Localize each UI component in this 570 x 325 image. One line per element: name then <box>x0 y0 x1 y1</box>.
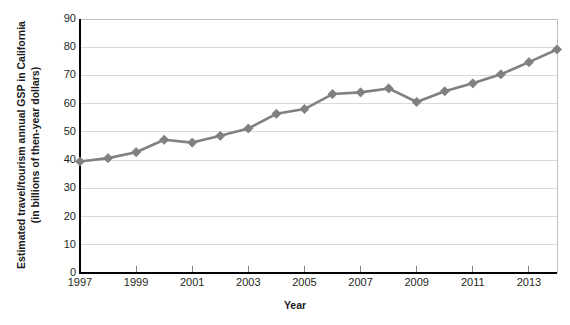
x-axis-tick-label: 2001 <box>172 276 212 289</box>
x-axis-tick-label: 2011 <box>453 276 493 289</box>
x-axis-title-text: Year <box>284 299 306 311</box>
x-axis-title: Year <box>0 299 570 311</box>
x-axis-tick-label: 2003 <box>228 276 268 289</box>
x-axis-tick-label: 2013 <box>509 276 549 289</box>
data-series-line <box>80 49 557 161</box>
x-axis-tick-label: 2009 <box>397 276 437 289</box>
x-axis-tick-label: 1997 <box>60 276 100 289</box>
x-axis-tick-label: 2007 <box>341 276 381 289</box>
line-chart-figure: Estimated travel/tourism annual GSP in C… <box>0 0 570 325</box>
gridlines <box>80 19 557 245</box>
x-axis-tick-labels: 199719992001200320052007200920112013 <box>0 276 570 296</box>
x-axis-tick-label: 1999 <box>116 276 156 289</box>
x-axis-tick-label: 2005 <box>284 276 324 289</box>
